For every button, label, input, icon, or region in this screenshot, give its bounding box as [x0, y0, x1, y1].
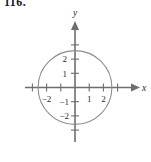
y-ticklabel-minus1: −1: [59, 97, 69, 107]
plot-svg: −2 1 2 2 1 −1 −2 x y: [0, 0, 151, 162]
y-axis-label: y: [72, 8, 78, 18]
y-ticklabel-minus2: −2: [59, 111, 69, 121]
x-axis-arrow-icon: [131, 84, 140, 92]
coordinate-plot: −2 1 2 2 1 −1 −2 x y: [0, 0, 151, 162]
x-ticklabel-1: 1: [87, 94, 92, 104]
y-axis-arrow-icon: [71, 21, 79, 30]
x-ticklabel-2: 2: [101, 94, 106, 104]
x-ticklabel-minus2: −2: [42, 94, 52, 104]
y-ticklabel-2: 2: [63, 54, 68, 64]
y-ticklabel-1: 1: [63, 69, 68, 79]
x-axis-label: x: [141, 83, 147, 93]
